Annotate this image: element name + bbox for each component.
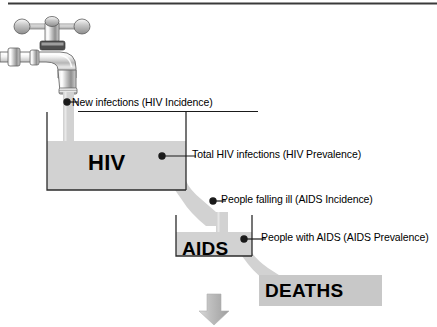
callout-people-with-aids: People with AIDS (AIDS Prevalence): [261, 231, 429, 243]
down-arrow-icon: [199, 294, 229, 325]
diagram-canvas: HIV AIDS DEATHS New infections (HIV Inci…: [0, 0, 437, 327]
stock-label-aids: AIDS: [182, 238, 229, 260]
diagram-graphics: [0, 0, 437, 327]
stock-label-hiv: HIV: [88, 150, 126, 176]
stock-label-deaths: DEATHS: [265, 280, 344, 302]
callout-total-hiv-infections: Total HIV infections (HIV Prevalence): [192, 148, 361, 160]
hiv-to-aids-stream: [216, 212, 228, 232]
faucet-icon: [0, 17, 90, 95]
callout-new-infections: New infections (HIV Incidence): [72, 96, 213, 108]
callout-people-falling-ill: People falling ill (AIDS Incidence): [221, 193, 373, 205]
